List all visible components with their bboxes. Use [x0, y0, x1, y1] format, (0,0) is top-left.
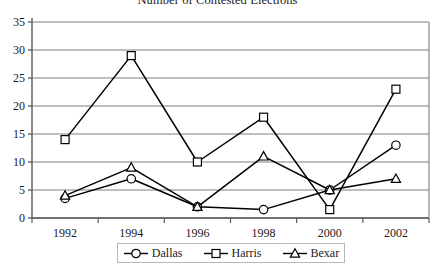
- y-axis-tick-label: 10: [13, 155, 25, 169]
- y-axis-tick-label: 5: [19, 183, 25, 197]
- y-axis-group: 05101520253035: [13, 15, 32, 225]
- legend-item-bexar[interactable]: Bexar: [282, 246, 340, 261]
- square-marker-icon: [392, 85, 400, 93]
- legend-item-dallas[interactable]: Dallas: [123, 246, 183, 261]
- square-marker-icon: [193, 158, 201, 166]
- square-marker-icon: [260, 113, 268, 121]
- square-marker-icon: [326, 206, 334, 214]
- legend-item-harris[interactable]: Harris: [203, 246, 262, 261]
- x-axis-tick-label: 1994: [119, 226, 143, 240]
- legend-item-label: Dallas: [152, 246, 183, 261]
- x-axis-tick-label: 1998: [252, 226, 276, 240]
- square-marker-icon: [127, 52, 135, 60]
- triangle-marker-icon: [282, 247, 308, 260]
- circle-marker-icon: [127, 175, 135, 183]
- circle-marker-icon: [259, 205, 267, 213]
- circle-marker-icon: [123, 247, 149, 260]
- x-axis-tick-label: 2002: [384, 226, 408, 240]
- chart-container: Number of Contested Elections 0510152025…: [0, 0, 435, 266]
- y-axis-tick-label: 25: [13, 71, 25, 85]
- x-axis-group: 199219941996199820002002: [32, 218, 429, 240]
- circle-marker-icon: [132, 249, 140, 257]
- legend-item-label: Bexar: [311, 246, 340, 261]
- chart-plot-area: 05101520253035 199219941996199820002002: [0, 0, 435, 266]
- x-axis-tick-label: 2000: [318, 226, 342, 240]
- square-marker-icon: [203, 247, 229, 260]
- legend-item-label: Harris: [232, 246, 262, 261]
- y-axis-tick-label: 20: [13, 99, 25, 113]
- y-axis-tick-label: 15: [13, 127, 25, 141]
- y-axis-tick-label: 30: [13, 43, 25, 57]
- gridlines-group: [32, 22, 429, 218]
- square-marker-icon: [212, 249, 220, 257]
- chart-legend: DallasHarrisBexar: [117, 243, 345, 263]
- x-axis-tick-label: 1996: [185, 226, 209, 240]
- x-axis-tick-label: 1992: [53, 226, 77, 240]
- square-marker-icon: [61, 136, 69, 144]
- y-axis-tick-label: 35: [13, 15, 25, 29]
- circle-marker-icon: [392, 141, 400, 149]
- y-axis-tick-label: 0: [19, 211, 25, 225]
